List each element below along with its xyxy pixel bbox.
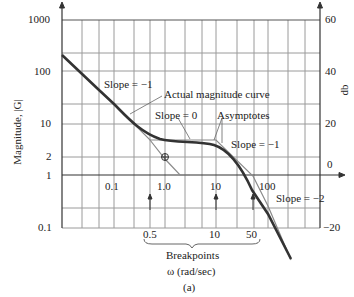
annotation-slope-0: Slope = 0 (155, 109, 197, 121)
db-tick-60: 60 (325, 13, 336, 25)
annotation-asymptotes: Asymptotes (217, 109, 270, 121)
x-tick-10: 10 (210, 180, 221, 192)
breakpoints-label: Breakpoints (166, 249, 219, 261)
db-tick-40: 40 (325, 65, 336, 77)
y-tick-1000: 1000 (28, 13, 50, 25)
annotation-slope-minus1-right: Slope = −1 (231, 138, 279, 150)
annotation-slope-minus2: Slope = −2 (276, 192, 324, 204)
y-tick-10: 10 (40, 117, 51, 129)
y-tick-100: 100 (34, 65, 51, 77)
y-tick-1: 1 (46, 169, 52, 181)
annotation-slope-minus1-left: Slope = −1 (104, 78, 152, 90)
x-tick-0.1: 0.1 (105, 180, 119, 192)
y-axis-label: Magnitude, |G| (11, 87, 23, 177)
x-tick-100: 100 (259, 180, 276, 192)
breakpoint-0.5: 0.5 (143, 228, 157, 240)
figure-caption: (a) (183, 281, 195, 293)
y-tick-0.1: 0.1 (38, 221, 52, 233)
x-axis-label: ω (rad/sec) (167, 265, 215, 277)
y-tick-2: 2 (46, 150, 52, 162)
breakpoint-50: 50 (246, 228, 257, 240)
db-tick-20: 20 (325, 117, 336, 129)
x-tick-1.0: 1.0 (157, 180, 171, 192)
breakpoint-10: 10 (209, 228, 220, 240)
db-axis-label: db (338, 85, 350, 96)
annotation-actual-curve: Actual magnitude curve (164, 88, 270, 100)
db-tick-minus20: −20 (323, 221, 340, 233)
db-tick-0: 0 (327, 158, 333, 170)
